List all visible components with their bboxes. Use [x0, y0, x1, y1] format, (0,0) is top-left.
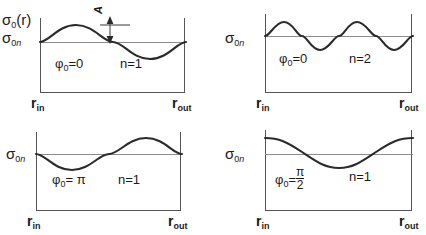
phase-label: φ0=0	[55, 57, 83, 73]
harmonic-number-label: n=2	[349, 52, 371, 65]
harmonic-number-label: n=1	[349, 170, 371, 183]
x-axis-label-rout: rout	[399, 96, 418, 113]
panel-1: σ0(r) σ0n A φ0=0 n=1 rin	[0, 0, 213, 117]
phase-label: φ0=0	[279, 52, 307, 68]
panel-2: σ0n φ0=0 n=2 rin rout	[213, 0, 426, 117]
panel-3: σ0n φ0= π n=1 rin rout	[0, 118, 213, 235]
y-axis-label-sigma0r: σ0(r)	[2, 12, 31, 30]
x-axis-label-rin: rin	[256, 96, 269, 113]
x-axis-label-rout: rout	[172, 96, 191, 113]
phase-fraction: π2	[296, 166, 304, 192]
x-axis-label-rout: rout	[168, 214, 187, 231]
x-axis-label-rin: rin	[31, 96, 44, 113]
harmonic-number-label: n=1	[120, 57, 142, 70]
y-axis-label-sigma0n: σ0n	[225, 146, 244, 164]
phase-label: φ0=π2	[275, 166, 304, 192]
figure-canvas: σ0(r) σ0n A φ0=0 n=1 rin	[0, 0, 426, 235]
y-axis-label-sigma0n: σ0n	[6, 146, 25, 164]
y-axis-label-sigma0n: σ0n	[225, 30, 244, 48]
x-axis-label-rin: rin	[27, 214, 40, 231]
x-axis-label-rin: rin	[256, 214, 269, 231]
amplitude-arrow	[100, 14, 140, 54]
y-axis-label-sigma0n: σ0n	[2, 30, 21, 48]
amplitude-label: A	[93, 6, 104, 14]
panel-4: σ0n φ0=π2 n=1 rin rout	[213, 118, 426, 235]
phase-label: φ0= π	[52, 173, 86, 189]
x-axis-label-rout: rout	[399, 214, 418, 231]
harmonic-number-label: n=1	[118, 173, 140, 186]
